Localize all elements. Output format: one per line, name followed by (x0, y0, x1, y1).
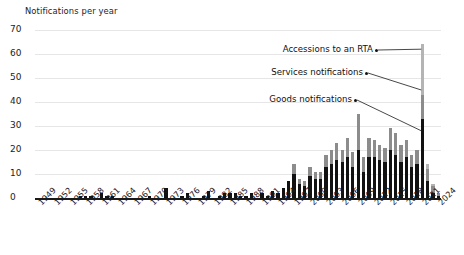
annotation-label: Goods notifications (269, 94, 352, 104)
bar (421, 44, 424, 198)
plot-area (35, 30, 441, 198)
bar-segment (324, 155, 327, 167)
bar (394, 133, 397, 198)
y-axis-ticks: 010203040506070 (10, 30, 36, 198)
bar-segment (389, 128, 392, 150)
y-axis-tick-label: 10 (10, 168, 36, 178)
y-axis-tick-label: 60 (10, 48, 36, 58)
bar-segment (421, 119, 424, 198)
y-axis-title: Notifications per year (25, 6, 118, 16)
bar-segment (426, 169, 429, 181)
y-axis-tick-label: 20 (10, 144, 36, 154)
annotation-dot (365, 72, 368, 75)
y-axis-tick-label: 70 (10, 24, 36, 34)
bar-segment (399, 145, 402, 162)
y-axis-tick-label: 0 (10, 192, 36, 202)
annotation-dot (375, 49, 378, 52)
bar-segment (351, 152, 354, 166)
bar-segment (378, 145, 381, 159)
bar-segment (357, 114, 360, 150)
y-axis-tick-label: 30 (10, 120, 36, 130)
bar-segment (341, 150, 344, 162)
annotation-dot (354, 99, 357, 102)
bar-segment (383, 148, 386, 162)
bar-segment (346, 138, 349, 157)
y-axis-tick-label: 40 (10, 96, 36, 106)
bar (357, 114, 360, 198)
annotation-label: Accessions to an RTA (283, 44, 373, 54)
bar-segment (421, 44, 424, 94)
bar-segment (367, 138, 370, 157)
bar-segment (335, 143, 338, 160)
bar-segment (362, 157, 365, 171)
bar-segment (314, 172, 317, 179)
bar-segment (292, 164, 295, 174)
x-axis-labels: 1949195219551958196119641967197019731976… (35, 200, 441, 255)
chart-container: Notifications per year 010203040506070 1… (0, 0, 464, 255)
bar-segment (405, 140, 408, 157)
bar (346, 138, 349, 198)
bar-segment (415, 150, 418, 164)
bar-segment (394, 133, 397, 155)
annotation-label: Services notifications (271, 67, 363, 77)
y-axis-tick-label: 50 (10, 72, 36, 82)
bar-segment (421, 95, 424, 119)
bar-segment (319, 172, 322, 179)
bar-segment (373, 140, 376, 157)
bar-segment (308, 167, 311, 177)
bar-segment (330, 150, 333, 164)
bar-segment (410, 155, 413, 167)
